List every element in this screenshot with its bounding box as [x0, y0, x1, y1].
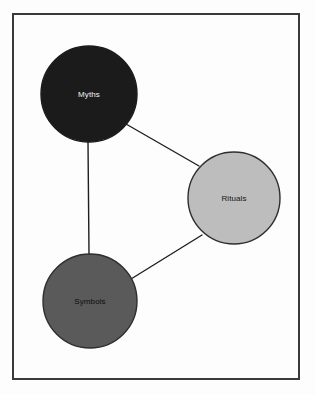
diagram-canvas: [0, 0, 315, 395]
diagram-root: Myths Rituals Symbols: [0, 0, 315, 395]
edge-symbols-rituals: [131, 235, 202, 279]
node-circle-symbols[interactable]: [43, 254, 137, 348]
edge-myths-symbols: [88, 142, 89, 254]
node-circle-myths[interactable]: [41, 46, 137, 142]
node-circle-rituals[interactable]: [188, 152, 280, 244]
edge-myths-rituals: [126, 124, 199, 166]
